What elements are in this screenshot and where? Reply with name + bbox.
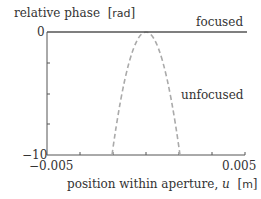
focused-label: focused [196, 16, 243, 28]
x-tick-max: 0.005 [222, 160, 256, 172]
y-tick-0: 0 [37, 26, 45, 38]
unfocused-label: unfocused [181, 89, 244, 101]
x-axis-label: position within aperture, u [m] [67, 178, 258, 190]
x-tick-min: −0.005 [29, 160, 73, 172]
y-axis-label: relative phase [rad] [14, 7, 135, 19]
unfocused-curve [112, 32, 180, 155]
